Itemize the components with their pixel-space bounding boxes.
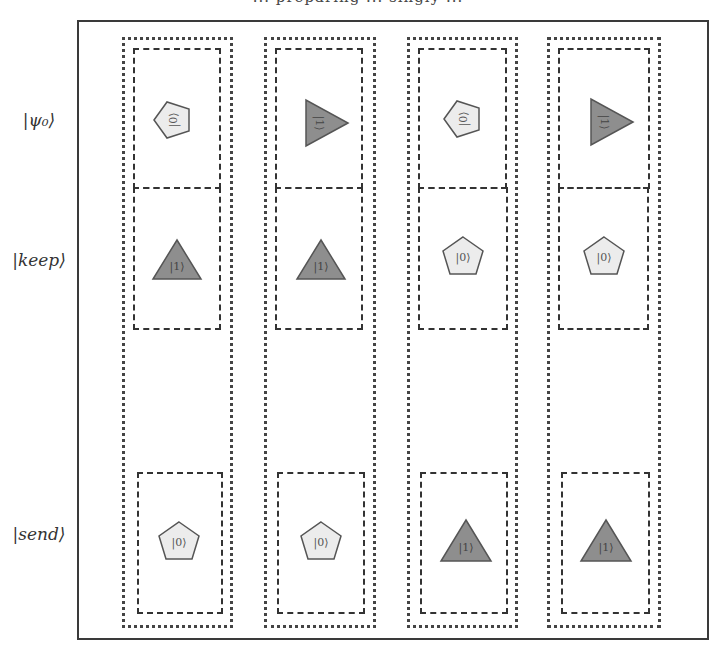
svg-text:|1⟩: |1⟩ [170,260,185,274]
pentagon-zero-icon: |0⟩ [582,235,626,277]
row-label-send: |send⟩ [4,524,74,544]
svg-text:|0⟩: |0⟩ [456,251,471,265]
pentagon-zero-icon: |0⟩ [299,520,343,562]
svg-text:|1⟩: |1⟩ [312,116,326,131]
triangle-one-icon: |1⟩ [302,98,352,148]
pentagon-zero-icon: |0⟩ [440,96,486,142]
diagram-title: ... preparing ... singly ... [0,0,716,6]
row-label-psi0: |ψ₀⟩ [4,110,74,130]
svg-text:|0⟩: |0⟩ [597,251,612,265]
triangle-one-icon: |1⟩ [296,238,346,282]
svg-text:|1⟩: |1⟩ [459,541,474,555]
svg-text:|1⟩: |1⟩ [314,260,329,274]
pentagon-zero-icon: |0⟩ [157,520,201,562]
svg-text:|0⟩: |0⟩ [314,536,329,550]
svg-text:|0⟩: |0⟩ [457,112,471,127]
svg-text:|1⟩: |1⟩ [597,115,611,130]
svg-text:|0⟩: |0⟩ [172,536,187,550]
svg-text:|1⟩: |1⟩ [599,541,614,555]
triangle-one-icon: |1⟩ [152,238,202,282]
row-label-keep: |keep⟩ [4,250,74,270]
svg-text:|0⟩: |0⟩ [167,113,181,128]
pentagon-zero-icon: |0⟩ [150,97,196,143]
triangle-one-icon: |1⟩ [440,518,492,564]
triangle-one-icon: |1⟩ [587,97,637,147]
pentagon-zero-icon: |0⟩ [441,235,485,277]
triangle-one-icon: |1⟩ [580,518,632,564]
